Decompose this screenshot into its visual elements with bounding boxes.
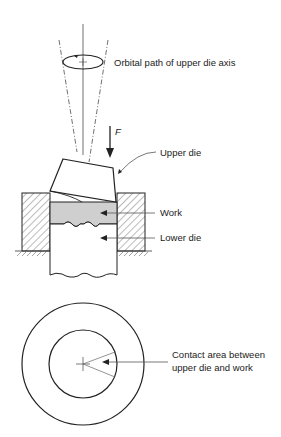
lower-die-label: Lower die — [160, 232, 201, 243]
contact-area-label-line2: upper die and work — [172, 362, 253, 373]
work-label: Work — [160, 207, 182, 218]
force-label: F — [115, 126, 122, 137]
leader-contact-area — [102, 359, 168, 365]
contact-area-label-line1: Contact area between — [172, 349, 265, 360]
leader-upper-die — [118, 152, 156, 174]
contact-area-wedge — [83, 352, 115, 377]
orbital-path-label: Orbital path of upper die axis — [114, 57, 236, 68]
force-arrow — [106, 126, 114, 158]
left-die-holder — [22, 193, 50, 251]
right-die-holder — [117, 193, 145, 251]
lower-die — [50, 222, 117, 277]
upper-die-label: Upper die — [160, 147, 201, 158]
die-axis-lines — [59, 24, 108, 162]
upper-die — [50, 159, 116, 202]
orbital-forging-diagram: Orbital path of upper die axis F Upper d… — [0, 0, 281, 437]
